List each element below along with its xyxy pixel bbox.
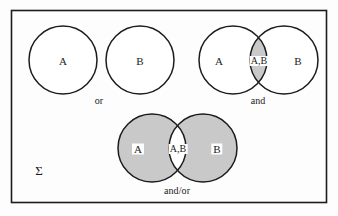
region-label-andor-a: A xyxy=(132,144,144,155)
region-label-and-ab: A,B xyxy=(250,56,269,66)
group-or xyxy=(29,26,174,94)
venn-diagram-canvas xyxy=(0,0,338,216)
operator-label-and-or: and/or xyxy=(164,186,190,196)
region-label-or-a: A xyxy=(59,56,67,67)
region-label-andor-ab: A,B xyxy=(169,144,188,154)
venn-diagram-figure: A B or A A,B B and A A,B B and/or Σ xyxy=(0,0,338,216)
region-label-and-a: A xyxy=(215,56,223,67)
operator-label-and: and xyxy=(251,96,266,106)
region-label-or-b: B xyxy=(136,56,143,67)
operator-label-or: or xyxy=(95,96,104,106)
region-label-andor-b: B xyxy=(211,144,222,155)
universe-sigma-symbol: Σ xyxy=(35,164,43,177)
region-label-and-b: B xyxy=(294,56,301,67)
